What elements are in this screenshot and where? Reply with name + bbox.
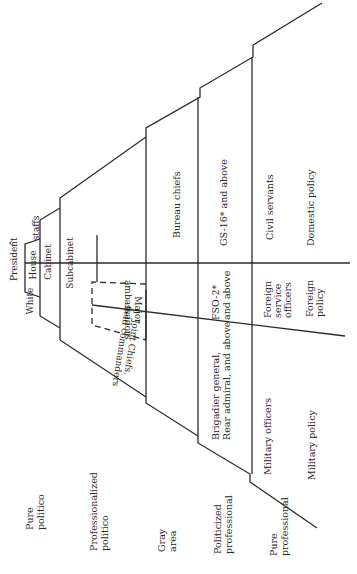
civil-servants-label: Civil servants: [264, 174, 275, 240]
military-officers-label: Military officers: [262, 398, 273, 475]
subcabinet-label: Subcabinet: [65, 237, 75, 289]
domestic-policy-label: Domestic policy: [305, 169, 316, 246]
tier-label-professionalized-politico: Professionalizedpolitico: [88, 472, 110, 551]
tier-label-pure-politico: Purepolitico: [24, 494, 46, 530]
cabinet-label: Cabinet: [43, 244, 53, 280]
tier-label-gray-area: Grayarea: [156, 529, 178, 552]
joint-chiefs-label: Joint Chiefs,field commanders: [110, 305, 143, 389]
gs16-label: GS-16* and above: [218, 159, 229, 246]
labels: ^ President White House staffs Cabinet S…: [0, 0, 357, 574]
tier-label-politicized-professional: Politicizedprofessional: [212, 495, 234, 554]
military-policy-label: Military policy: [306, 410, 317, 480]
fso2-label: FSO-2*and above: [210, 271, 232, 320]
white-label: White: [25, 288, 35, 315]
house-label: House: [28, 250, 38, 279]
foreign-service-officers-label: Foreignserviceofficers: [263, 281, 293, 318]
staffs-label: staffs: [31, 216, 41, 241]
foreign-policy-label: Foreignpolicy: [305, 280, 325, 317]
president-label: President: [9, 241, 19, 281]
brigadier-general-label: Brigadier general,Rear admiral, and abov…: [210, 322, 232, 440]
tier-label-pure-professional: Pureprofessional: [268, 497, 290, 556]
bureau-chiefs-label: Bureau chiefs: [171, 171, 182, 238]
